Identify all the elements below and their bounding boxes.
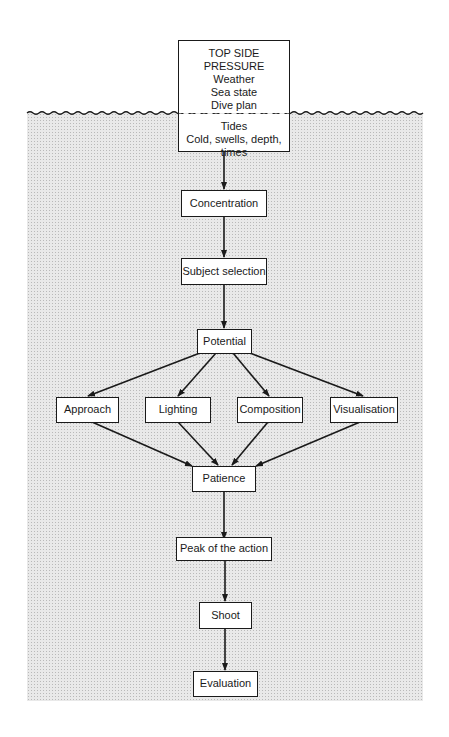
edge-potential-to-visualisation <box>250 353 363 396</box>
top-box-title: TOP SIDE PRESSURE <box>179 47 289 73</box>
node-visualisation: Visualisation <box>330 397 398 423</box>
node-evaluation: Evaluation <box>193 671 258 697</box>
edge-visualisation-to-patience <box>256 422 360 466</box>
node-peak-of-the-action: Peak of the action <box>176 537 272 561</box>
above-surface-section: TOP SIDE PRESSURE Weather Sea state Dive… <box>179 41 289 113</box>
item-tides: Tides <box>179 120 289 133</box>
edge-lighting-to-patience <box>178 422 218 465</box>
node-patience: Patience <box>192 466 256 492</box>
node-composition: Composition <box>237 397 303 423</box>
node-lighting: Lighting <box>145 397 211 423</box>
edge-potential-to-composition <box>233 353 269 396</box>
below-surface-section: Tides Cold, swells, depth, times <box>179 114 289 151</box>
edge-approach-to-patience <box>92 422 192 466</box>
node-approach: Approach <box>56 397 119 423</box>
edge-composition-to-patience <box>232 422 268 465</box>
item-dive-plan: Dive plan <box>179 99 289 112</box>
node-concentration: Concentration <box>181 190 267 217</box>
node-shoot: Shoot <box>199 602 252 629</box>
node-potential: Potential <box>197 329 252 354</box>
item-sea-state: Sea state <box>179 86 289 99</box>
top-side-pressure-box: TOP SIDE PRESSURE Weather Sea state Dive… <box>178 40 290 152</box>
item-conditions: Cold, swells, depth, times <box>179 133 289 159</box>
item-weather: Weather <box>179 73 289 86</box>
node-subject-selection: Subject selection <box>181 258 267 285</box>
